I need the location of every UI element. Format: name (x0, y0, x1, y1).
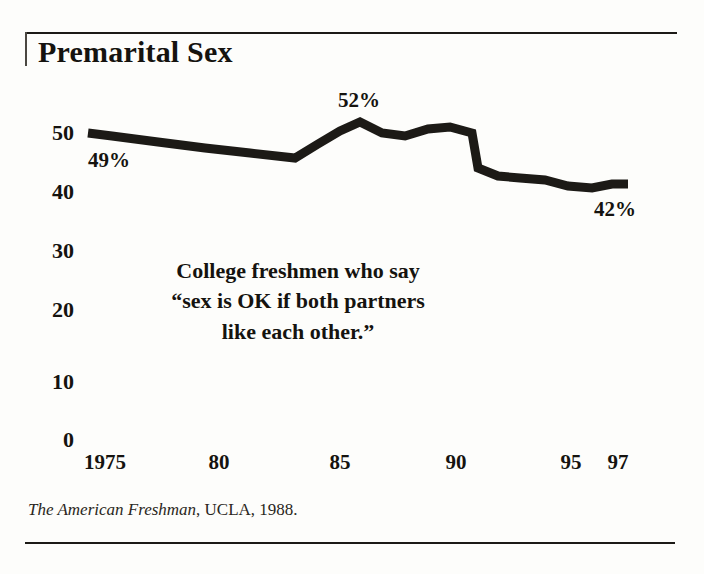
chart-caption: College freshmen who say “sex is OK if b… (118, 256, 478, 347)
source-rest: , UCLA, 1988. (196, 500, 298, 519)
annotation-49-percent: 49% (88, 150, 130, 171)
caption-line-2: “sex is OK if both partners (118, 286, 478, 316)
annotation-42-percent: 42% (594, 199, 636, 220)
caption-line-3: like each other.” (118, 317, 478, 347)
bottom-rule (25, 542, 675, 544)
caption-line-1: College freshmen who say (118, 256, 478, 286)
data-line-series (88, 122, 628, 188)
source-attribution: The American Freshman, UCLA, 1988. (28, 500, 298, 520)
annotation-52-percent: 52% (338, 90, 380, 111)
chart-figure: Premarital Sex 50 40 30 20 10 0 1975 80 … (0, 0, 704, 574)
source-work-title: The American Freshman (28, 500, 196, 519)
